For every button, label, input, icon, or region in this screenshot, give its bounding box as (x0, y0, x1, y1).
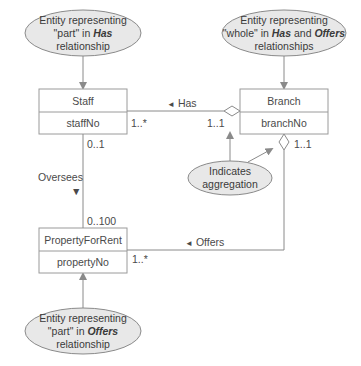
has-label: ◄Has (167, 97, 197, 109)
oversees-direction-icon: ▼ (71, 185, 81, 197)
oversees-label: Oversees (38, 171, 83, 183)
aggregation-note-line1: Indicates (209, 165, 251, 177)
has-branch-multiplicity: 1..1 (207, 117, 225, 129)
property-part-note: Entity representing "part" in Offers rel… (25, 308, 141, 354)
branch-note-line1: Entity representing (240, 14, 328, 26)
staff-note-line3: relationship (56, 40, 110, 52)
branch-class-name: Branch (267, 95, 300, 107)
offers-branch-multiplicity: 1..1 (294, 138, 312, 150)
staff-attribute: staffNo (66, 117, 99, 129)
offers-property-multiplicity: 1..* (132, 253, 148, 265)
property-note-line1: Entity representing (39, 312, 127, 324)
branch-whole-note: Entity representing "whole" in Has and O… (222, 10, 346, 56)
property-note-line3: relationship (56, 338, 110, 350)
staff-note-line2: "part" in Has (54, 27, 113, 39)
class-propertyforrent: PropertyForRent propertyNo (39, 228, 127, 273)
branch-note-line2: "whole" in Has and Offers (223, 27, 345, 39)
staff-part-note: Entity representing "part" in Has relati… (25, 10, 141, 56)
property-note-line2: "part" in Offers (48, 325, 118, 337)
has-aggregation-diamond-icon (224, 106, 240, 116)
oversees-property-multiplicity: 0..100 (87, 215, 116, 227)
aggregation-note-line2: aggregation (202, 178, 258, 190)
aggregation-note: Indicates aggregation (188, 161, 272, 195)
class-branch: Branch branchNo (240, 89, 328, 134)
branch-attribute: branchNo (261, 117, 307, 129)
oversees-staff-multiplicity: 0..1 (87, 138, 105, 150)
branch-note-line3: relationships (255, 40, 314, 52)
has-staff-multiplicity: 1..* (131, 117, 147, 129)
propertyforrent-class-name: PropertyForRent (44, 234, 122, 246)
aggregation-note-arrow-offers (248, 150, 270, 162)
offers-label: ◄Offers (185, 236, 224, 248)
aggregation-diagram: Entity representing "part" in Has relati… (0, 0, 361, 366)
offers-aggregation-diamond-icon (279, 134, 289, 150)
staff-class-name: Staff (72, 95, 93, 107)
staff-note-line1: Entity representing (39, 14, 127, 26)
class-staff: Staff staffNo (39, 89, 127, 134)
propertyforrent-attribute: propertyNo (57, 256, 109, 268)
